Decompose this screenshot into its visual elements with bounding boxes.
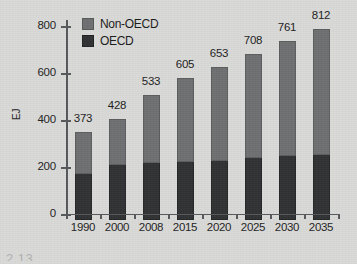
bar-group-2025[interactable] <box>245 54 262 220</box>
x-tick-mark-0 <box>66 214 68 219</box>
bar-segment-oecd-2008[interactable] <box>143 163 160 220</box>
bar-segment-non-oecd-2015[interactable] <box>177 78 194 162</box>
bar-segment-non-oecd-2000[interactable] <box>109 119 126 165</box>
chart-legend: Non-OECD OECD <box>82 18 158 52</box>
y-tick-label-400: 400 <box>16 114 56 126</box>
bar-total-label-2020: 653 <box>196 47 242 59</box>
bar-segment-non-oecd-2030[interactable] <box>279 41 296 156</box>
x-tick-mark-3 <box>168 214 170 219</box>
bar-total-label-2000: 428 <box>94 99 140 111</box>
legend-label-non-oecd: Non-OECD <box>100 18 158 30</box>
bar-group-2035[interactable] <box>313 29 330 220</box>
y-tick-mark-600 <box>61 73 71 75</box>
bar-segment-oecd-2025[interactable] <box>245 158 262 220</box>
bar-total-label-2025: 708 <box>230 34 276 46</box>
y-tick-label-200: 200 <box>16 161 56 173</box>
bar-segment-oecd-2000[interactable] <box>109 165 126 220</box>
y-tick-label-0: 0 <box>16 208 56 220</box>
legend-item-non-oecd[interactable]: Non-OECD <box>82 18 158 30</box>
bar-group-2008[interactable] <box>143 95 160 220</box>
legend-swatch-non-oecd-icon <box>82 18 94 30</box>
bar-segment-oecd-2030[interactable] <box>279 156 296 220</box>
bar-total-label-2030: 761 <box>264 21 310 33</box>
x-tick-mark-5 <box>236 214 238 219</box>
bar-segment-non-oecd-2035[interactable] <box>313 29 330 154</box>
bar-segment-non-oecd-2008[interactable] <box>143 95 160 163</box>
bar-total-label-2008: 533 <box>128 75 174 87</box>
bar-segment-non-oecd-2025[interactable] <box>245 54 262 159</box>
bar-segment-oecd-2020[interactable] <box>211 161 228 220</box>
bar-group-1990[interactable] <box>75 132 92 220</box>
x-tick-label-2035: 2035 <box>301 221 341 233</box>
bar-segment-non-oecd-2020[interactable] <box>211 67 228 161</box>
x-tick-mark-8 <box>338 214 340 219</box>
legend-swatch-oecd-icon <box>82 35 94 47</box>
chart-figure: EJ 800 600 400 200 0 1990 2000 2008 2015… <box>0 0 357 264</box>
bar-total-label-2015: 605 <box>162 58 208 70</box>
x-tick-mark-7 <box>304 214 306 219</box>
x-tick-mark-4 <box>202 214 204 219</box>
bar-total-label-1990: 373 <box>60 112 106 124</box>
bar-group-2030[interactable] <box>279 41 296 220</box>
y-tick-label-600: 600 <box>16 67 56 79</box>
bar-segment-non-oecd-1990[interactable] <box>75 132 92 174</box>
bar-segment-oecd-2035[interactable] <box>313 155 330 220</box>
legend-item-oecd[interactable]: OECD <box>82 35 158 47</box>
x-tick-mark-1 <box>100 214 102 219</box>
x-tick-mark-6 <box>270 214 272 219</box>
caption-fragment: 2.13 <box>6 252 33 261</box>
bar-total-label-2035: 812 <box>298 9 344 21</box>
bar-group-2000[interactable] <box>109 119 126 220</box>
y-tick-mark-200 <box>61 167 71 169</box>
bar-segment-oecd-2015[interactable] <box>177 162 194 220</box>
y-tick-label-800: 800 <box>16 20 56 32</box>
bar-group-2015[interactable] <box>177 78 194 220</box>
legend-label-oecd: OECD <box>100 35 133 47</box>
y-tick-mark-800 <box>61 26 71 28</box>
bar-group-2020[interactable] <box>211 67 228 220</box>
x-tick-mark-2 <box>134 214 136 219</box>
